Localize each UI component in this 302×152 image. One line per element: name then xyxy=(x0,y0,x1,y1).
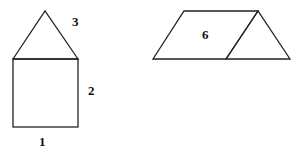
square-base xyxy=(13,59,78,127)
diagram-canvas: 3 2 1 6 xyxy=(0,0,302,152)
label-triangle-side: 3 xyxy=(72,14,79,29)
label-parallelogram-center: 6 xyxy=(202,27,209,42)
house-figure xyxy=(13,11,78,127)
label-square-right: 2 xyxy=(88,83,95,98)
right-triangle xyxy=(226,11,290,59)
label-square-bottom: 1 xyxy=(39,134,46,149)
parallelogram-figure xyxy=(153,11,290,59)
triangle-roof xyxy=(13,11,78,59)
